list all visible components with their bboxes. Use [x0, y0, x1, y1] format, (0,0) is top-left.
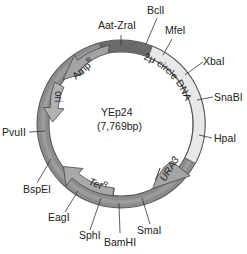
site-aat-zrai: Aat-ZraI — [98, 19, 136, 31]
site-bcli: BclI — [147, 4, 165, 16]
site-bspei: BspEI — [23, 183, 51, 195]
site-eagi: EagI — [48, 211, 70, 223]
site-bamhi: BamHI — [104, 236, 136, 248]
site-hpai: HpaI — [214, 132, 236, 144]
site-xbai: XbaI — [203, 55, 225, 67]
site-mfei: MfeI — [165, 24, 185, 36]
site-sphi: SphI — [79, 229, 101, 241]
plasmid-name: YEp24 — [101, 106, 133, 118]
site-snabi: SnaBI — [214, 91, 243, 103]
site-pvuii: PvuII — [2, 126, 26, 138]
plasmid-map: AmpR ori TetR URA3 2μ circle DNA YEp24 (… — [0, 0, 247, 254]
plasmid-size: (7,769bp) — [97, 120, 142, 132]
ori-label: ori — [53, 91, 64, 102]
site-smai: SmaI — [137, 224, 162, 236]
